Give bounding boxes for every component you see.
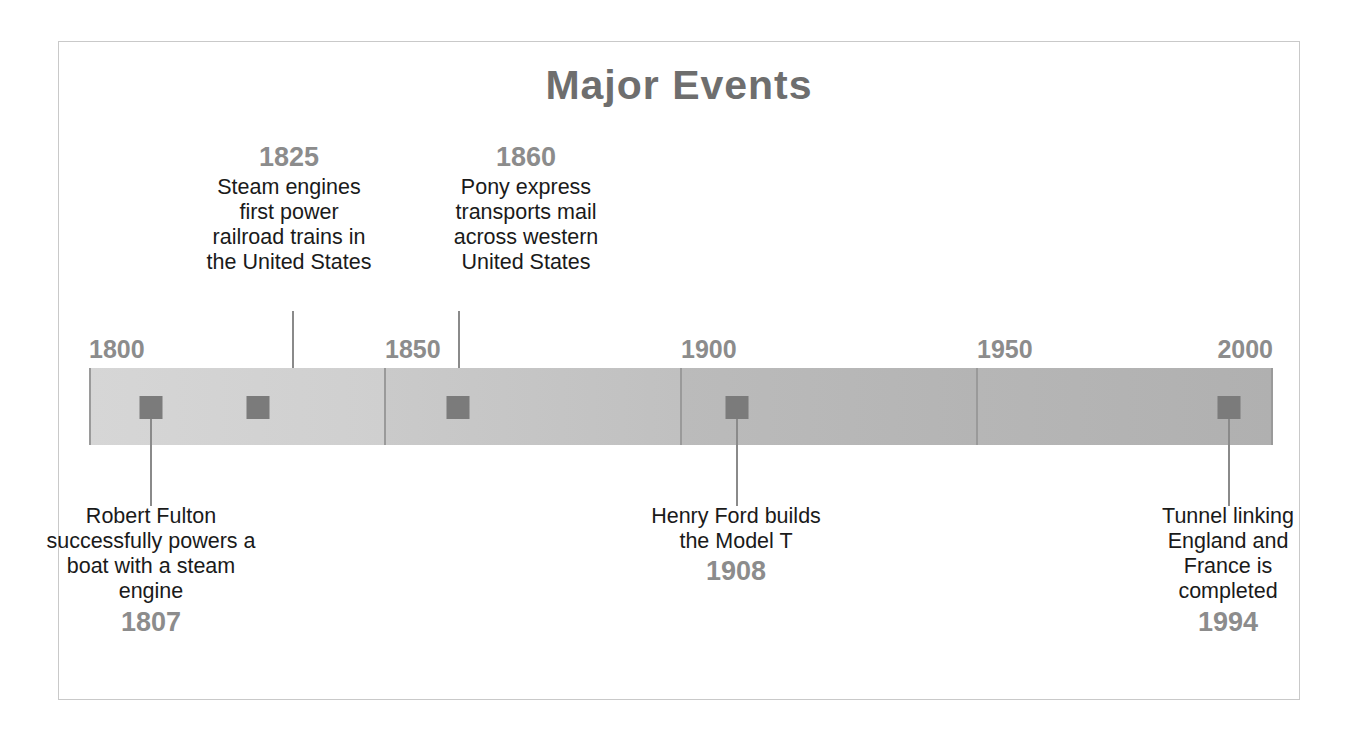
timeline-bar [89, 368, 1273, 445]
event-marker-1807 [140, 396, 163, 419]
leader-line-1994 [1228, 419, 1230, 506]
event-year: 1908 [626, 556, 846, 587]
event-year: 1825 [169, 142, 409, 173]
leader-line-1807 [150, 419, 152, 506]
event-marker-1908 [726, 396, 749, 419]
bar-divider-1950 [976, 368, 978, 445]
event-block-1908: Henry Ford builds the Model T 1908 [626, 504, 846, 587]
event-year: 1994 [1122, 607, 1334, 638]
bar-divider-1850 [384, 368, 386, 445]
page-title: Major Events [59, 62, 1299, 109]
event-text: Pony express transports mail across west… [415, 175, 637, 276]
event-year: 1807 [41, 607, 261, 638]
event-text: Steam engines first power railroad train… [169, 175, 409, 276]
bar-divider-1900 [680, 368, 682, 445]
axis-tick-1800: 1800 [89, 335, 145, 364]
event-block-1860: 1860 Pony express transports mail across… [415, 142, 637, 276]
axis-tick-1950: 1950 [977, 335, 1033, 364]
event-text: Henry Ford builds the Model T [626, 504, 846, 554]
event-text: Tunnel linking England and France is com… [1122, 504, 1334, 605]
axis-tick-1900: 1900 [681, 335, 737, 364]
bar-segment-1800-1850 [89, 368, 385, 445]
event-year: 1860 [415, 142, 637, 173]
bar-segment-1850-1900 [385, 368, 681, 445]
bar-divider-2000 [1271, 368, 1273, 445]
event-marker-1860 [447, 396, 470, 419]
event-marker-1994 [1218, 396, 1241, 419]
leader-line-1908 [736, 419, 738, 506]
event-marker-1825 [247, 396, 270, 419]
event-block-1994: Tunnel linking England and France is com… [1122, 504, 1334, 638]
event-block-1807: Robert Fulton successfully powers a boat… [41, 504, 261, 638]
axis-tick-labels: 1800 1850 1900 1950 2000 [89, 330, 1273, 366]
axis-tick-2000: 2000 [1217, 335, 1273, 364]
axis-tick-1850: 1850 [385, 335, 441, 364]
event-block-1825: 1825 Steam engines first power railroad … [169, 142, 409, 276]
timeline-figure: Major Events 1825 Steam engines first po… [58, 41, 1300, 700]
event-text: Robert Fulton successfully powers a boat… [41, 504, 261, 605]
bar-divider-1800 [89, 368, 91, 445]
